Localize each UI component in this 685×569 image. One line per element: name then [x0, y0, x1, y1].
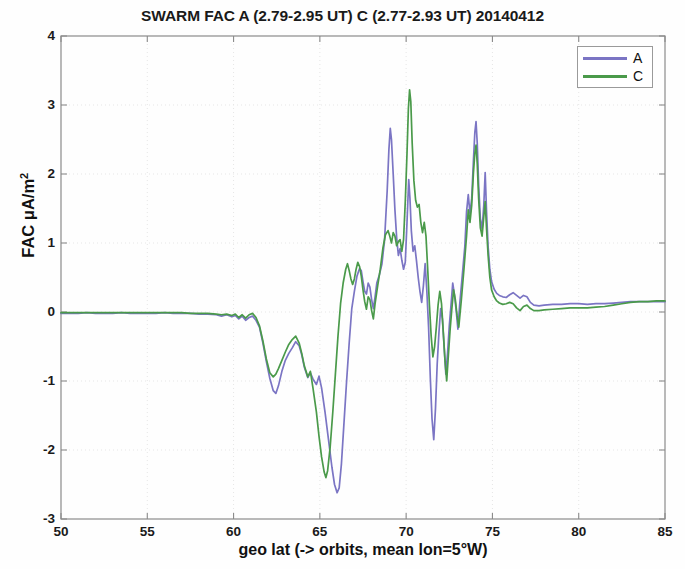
legend-label-a: A	[633, 50, 642, 66]
y-tick-label: 3	[25, 97, 55, 112]
x-tick-label: 80	[559, 524, 599, 539]
legend-swatch-c	[583, 75, 627, 78]
chart-figure: SWARM FAC A (2.79-2.95 UT) C (2.77-2.93 …	[0, 0, 685, 569]
x-axis-label: geo lat (-> orbits, mean lon=5°W)	[61, 541, 665, 559]
y-tick-label: 0	[25, 304, 55, 319]
legend-label-c: C	[633, 68, 643, 84]
legend: A C	[577, 46, 653, 88]
y-tick-label: 4	[25, 28, 55, 43]
y-tick-label: 2	[25, 166, 55, 181]
y-tick-label: 1	[25, 235, 55, 250]
x-tick-label: 70	[386, 524, 426, 539]
series-line-c	[61, 90, 665, 478]
x-tick-label: 85	[645, 524, 685, 539]
legend-swatch-a	[583, 57, 627, 60]
x-tick-label: 65	[300, 524, 340, 539]
y-tick-label: -3	[25, 511, 55, 526]
x-tick-label: 60	[214, 524, 254, 539]
x-tick-label: 55	[127, 524, 167, 539]
x-tick-label: 50	[41, 524, 81, 539]
x-tick-label: 75	[472, 524, 512, 539]
y-tick-label: -2	[25, 442, 55, 457]
y-tick-label: -1	[25, 373, 55, 388]
